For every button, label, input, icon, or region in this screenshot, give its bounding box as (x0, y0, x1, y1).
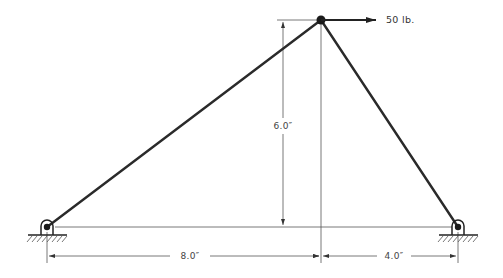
right-member (321, 20, 458, 227)
right-pin-icon (455, 224, 461, 230)
truss-diagram: 6.0″ 8.0″ 4.0″ 50 lb. (0, 0, 503, 278)
right-span-label: 4.0″ (385, 251, 404, 261)
force-label: 50 lb. (386, 14, 415, 25)
left-pin-icon (44, 224, 50, 230)
height-dimension-label: 6.0″ (274, 121, 293, 131)
left-span-label: 8.0″ (181, 251, 200, 261)
